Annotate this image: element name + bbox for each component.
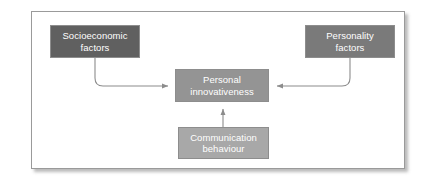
- node-communication: Communication behaviour: [178, 127, 269, 159]
- node-personality-label: Personality factors: [326, 30, 374, 53]
- node-socioeconomic-label: Socioeconomic factors: [62, 30, 127, 53]
- node-personality: Personality factors: [305, 25, 395, 58]
- edge-socioeconomic-to-personal: [95, 58, 168, 86]
- node-communication-label: Communication behaviour: [190, 132, 257, 155]
- diagram-frame: Socioeconomic factors Personality factor…: [31, 11, 405, 169]
- figure-root: Socioeconomic factors Personality factor…: [0, 0, 436, 186]
- edge-personality-to-personal: [277, 58, 350, 86]
- node-personal-innovativeness-label: Personal innovativeness: [190, 74, 254, 97]
- node-personal-innovativeness: Personal innovativeness: [175, 69, 269, 102]
- node-socioeconomic: Socioeconomic factors: [50, 25, 140, 58]
